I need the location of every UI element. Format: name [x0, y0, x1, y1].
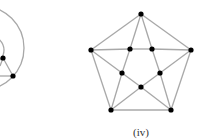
edge: [160, 50, 191, 73]
edge: [111, 73, 122, 110]
vertex: [88, 47, 93, 52]
edge: [130, 14, 141, 49]
vertex: [10, 73, 15, 78]
graph-iv-vertices: [88, 11, 193, 112]
vertex: [119, 70, 124, 75]
graph-iv-edges: [91, 14, 191, 110]
figure-caption: (iv): [133, 126, 149, 138]
edge: [111, 87, 141, 110]
edge: [91, 49, 130, 50]
edge: [160, 73, 171, 110]
edge: [122, 49, 130, 73]
vertex: [127, 46, 132, 51]
edge: [141, 87, 171, 110]
vertex: [108, 107, 113, 112]
edge: [141, 73, 160, 87]
edge: [91, 50, 122, 73]
vertex: [168, 107, 173, 112]
edge: [141, 14, 191, 50]
vertex: [138, 11, 143, 16]
partial-graph-iii: [0, 6, 24, 90]
vertex: [138, 84, 143, 89]
edge: [152, 49, 191, 50]
vertex: [157, 70, 162, 75]
graph-diagram: [0, 0, 200, 139]
vertex: [0, 55, 5, 60]
edge: [152, 49, 160, 73]
edge: [91, 50, 111, 110]
edge: [91, 14, 141, 50]
vertex: [149, 46, 154, 51]
edge: [3, 58, 13, 76]
edge: [141, 14, 152, 49]
edge: [171, 50, 191, 110]
vertex: [188, 47, 193, 52]
edge: [122, 73, 141, 87]
